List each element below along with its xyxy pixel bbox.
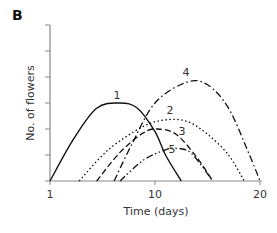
curve-label-4: 4 bbox=[183, 66, 190, 79]
x-tick-label: 10 bbox=[148, 188, 162, 201]
y-ticks bbox=[45, 25, 50, 181]
curve-5 bbox=[120, 148, 213, 181]
curve-label-3: 3 bbox=[179, 125, 186, 138]
curve-label-1: 1 bbox=[114, 89, 121, 102]
x-tick-label: 20 bbox=[253, 188, 267, 201]
curve-1 bbox=[50, 103, 181, 181]
x-axis-title: Time (days) bbox=[123, 205, 189, 218]
curve-label-2: 2 bbox=[167, 104, 174, 117]
x-ticks: 11020 bbox=[47, 181, 268, 201]
curve-label-5: 5 bbox=[169, 143, 176, 156]
axes: 11020 bbox=[45, 25, 267, 201]
x-tick-label: 1 bbox=[47, 188, 54, 201]
curve-labels: 12345 bbox=[114, 66, 190, 156]
curves bbox=[50, 81, 260, 181]
line-chart: 11020 12345 Time (days) No. of flowers bbox=[0, 0, 277, 233]
y-axis-title: No. of flowers bbox=[24, 65, 37, 141]
curve-3 bbox=[97, 129, 213, 181]
